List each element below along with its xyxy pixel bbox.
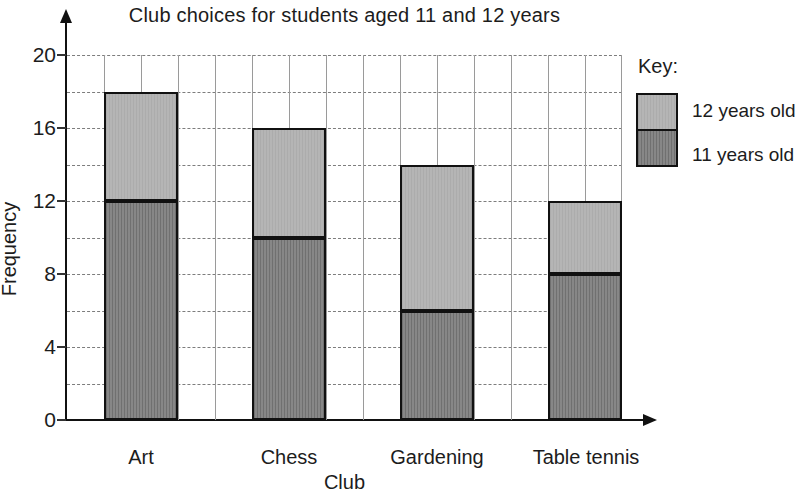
y-tick-label-20: 20 bbox=[8, 43, 56, 67]
legend-label-12-years-old: 12 years old bbox=[692, 100, 796, 122]
segment-11-years-old-chess bbox=[252, 238, 326, 421]
legend-label-11-years-old: 11 years old bbox=[692, 144, 794, 166]
y-axis-tick-mark bbox=[57, 54, 66, 56]
bar-gardening bbox=[400, 55, 474, 420]
segment-12-years-old-table-tennis bbox=[548, 201, 622, 274]
chart-title: Club choices for students aged 11 and 12… bbox=[67, 4, 622, 27]
vertical-gridline bbox=[178, 55, 179, 420]
vertical-gridline bbox=[511, 55, 512, 420]
legend-title: Key: bbox=[638, 55, 678, 78]
category-label-art: Art bbox=[61, 446, 221, 469]
y-tick-label-16: 16 bbox=[8, 116, 56, 140]
y-tick-label-12: 12 bbox=[8, 189, 56, 213]
segment-12-years-old-gardening bbox=[400, 165, 474, 311]
bar-table-tennis bbox=[548, 55, 622, 420]
segment-12-years-old-chess bbox=[252, 128, 326, 238]
segment-11-years-old-table-tennis bbox=[548, 274, 622, 420]
category-label-table-tennis: Table tennis bbox=[506, 446, 666, 469]
vertical-gridline bbox=[363, 55, 364, 420]
legend-swatch-12-years-old bbox=[636, 93, 678, 131]
y-tick-label-0: 0 bbox=[8, 408, 56, 432]
plot-area bbox=[67, 55, 622, 420]
y-tick-label-4: 4 bbox=[8, 335, 56, 359]
y-axis-tick-mark bbox=[57, 273, 66, 275]
category-label-gardening: Gardening bbox=[357, 446, 517, 469]
segment-11-years-old-art bbox=[104, 201, 178, 420]
segment-11-years-old-gardening bbox=[400, 311, 474, 421]
y-axis-tick-mark bbox=[57, 200, 66, 202]
segment-12-years-old-art bbox=[104, 92, 178, 202]
y-axis-arrow-icon bbox=[60, 9, 72, 23]
y-axis-tick-mark bbox=[57, 127, 66, 129]
legend-swatch-11-years-old bbox=[636, 129, 678, 167]
category-label-chess: Chess bbox=[209, 446, 369, 469]
y-axis-tick-mark bbox=[57, 346, 66, 348]
bar-art bbox=[104, 55, 178, 420]
x-axis-arrow-icon bbox=[643, 414, 657, 426]
vertical-gridline bbox=[326, 55, 327, 420]
bar-chess bbox=[252, 55, 326, 420]
club-axis-label: Club bbox=[67, 471, 622, 494]
vertical-gridline bbox=[474, 55, 475, 420]
y-axis-tick-mark bbox=[57, 419, 66, 421]
y-tick-label-8: 8 bbox=[8, 262, 56, 286]
vertical-gridline bbox=[215, 55, 216, 420]
frequency-axis-label: Frequency bbox=[0, 149, 22, 349]
chart-figure: Club choices for students aged 11 and 12… bbox=[0, 0, 798, 496]
